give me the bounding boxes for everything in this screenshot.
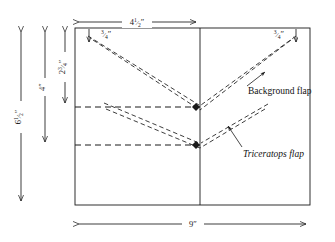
diagram-canvas: 41⁄2″ 9″ 61⁄2″ 4″ 23⁄4″ 3⁄4 xyxy=(0,0,335,242)
pattern-diagram: 41⁄2″ 9″ 61⁄2″ 4″ 23⁄4″ 3⁄4 xyxy=(0,0,335,242)
rectangle-outline xyxy=(75,28,310,205)
pattern-rectangle xyxy=(75,28,310,205)
dim-text-4half: 41⁄2″ xyxy=(130,17,145,28)
background-flap-label: Background flap xyxy=(248,86,312,96)
dim-text-4: 4″ xyxy=(37,83,47,91)
dimension-height-6half: 61⁄2″ xyxy=(13,32,28,201)
dim-text-6half: 61⁄2″ xyxy=(13,109,24,124)
dimension-height-2three4: 23⁄4″ xyxy=(57,32,72,103)
dimension-top-width: 41⁄2″ xyxy=(79,15,196,28)
dim-text-2three4: 23⁄4″ xyxy=(57,59,68,74)
dim-text-9: 9″ xyxy=(189,219,197,229)
dimension-height-4: 4″ xyxy=(37,32,52,142)
dimension-bottom-width: 9″ xyxy=(79,217,306,230)
triceratops-flap-label: Triceratops flap xyxy=(243,149,304,159)
